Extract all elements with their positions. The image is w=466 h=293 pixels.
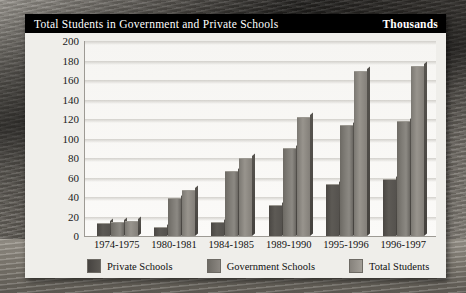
bar-total[interactable] [182,190,195,236]
bar-private[interactable] [383,179,396,236]
bar-government[interactable] [340,125,353,236]
legend-item-label: Private Schools [107,261,173,272]
x-axis-label: 1996-1997 [375,239,432,253]
x-axis-label: 1980-1981 [145,239,202,253]
x-axis-label: 1984-1985 [203,239,260,253]
bar-government[interactable] [397,121,410,236]
y-axis: 020406080100120140160180200 [25,33,84,236]
y-axis-tick: 60 [68,172,79,184]
bar-total[interactable] [354,71,367,236]
legend-item[interactable]: Private Schools [87,259,173,273]
page-title: Total Students in Government and Private… [34,18,278,30]
x-axis-label: 1995-1996 [317,239,374,253]
private-swatch [87,259,101,273]
y-axis-tick: 180 [63,55,80,67]
y-axis-tick: 40 [68,191,79,203]
bar-private[interactable] [211,222,224,236]
bar-group [146,41,203,236]
chart-title-bar: Total Students in Government and Private… [25,14,446,33]
bar-government[interactable] [111,222,124,236]
y-axis-tick: 100 [63,133,80,145]
bar-group [89,41,146,236]
bar-total[interactable] [239,158,252,236]
bar-group [203,41,260,236]
y-axis-tick: 120 [63,113,80,125]
bar-groups [85,41,436,236]
bar-group [261,41,318,236]
plot-canvas [84,41,436,237]
bar-group [375,41,432,236]
chart-legend: Private SchoolsGovernment SchoolsTotal S… [25,255,446,277]
y-axis-tick: 200 [63,35,80,47]
y-axis-tick: 0 [74,230,80,242]
bar-total[interactable] [125,221,138,236]
bar-total[interactable] [411,66,424,236]
y-axis-tick: 160 [63,74,80,86]
bar-government[interactable] [225,171,238,236]
total-swatch [349,259,363,273]
x-axis: 1974-19751980-19811984-19851989-19901995… [84,239,436,253]
y-axis-tick: 140 [63,94,80,106]
legend-item[interactable]: Total Students [349,259,429,273]
government-swatch [207,259,221,273]
bar-group [318,41,375,236]
y-axis-tick: 80 [68,152,79,164]
bar-total[interactable] [297,117,310,236]
bar-government[interactable] [168,198,181,236]
x-axis-label: 1989-1990 [260,239,317,253]
legend-item-label: Government Schools [227,261,315,272]
bar-government[interactable] [283,148,296,236]
bar-private[interactable] [326,184,339,236]
bar-private[interactable] [154,227,167,236]
units-label: Thousands [382,18,438,30]
bar-private[interactable] [269,205,282,236]
bar-private[interactable] [97,223,110,236]
legend-item[interactable]: Government Schools [207,259,315,273]
x-axis-label: 1974-1975 [88,239,145,253]
y-axis-tick: 20 [68,211,79,223]
plot-area: 020406080100120140160180200 1974-1975198… [25,33,446,255]
chart-card: Total Students in Government and Private… [25,14,446,278]
legend-item-label: Total Students [369,261,429,272]
